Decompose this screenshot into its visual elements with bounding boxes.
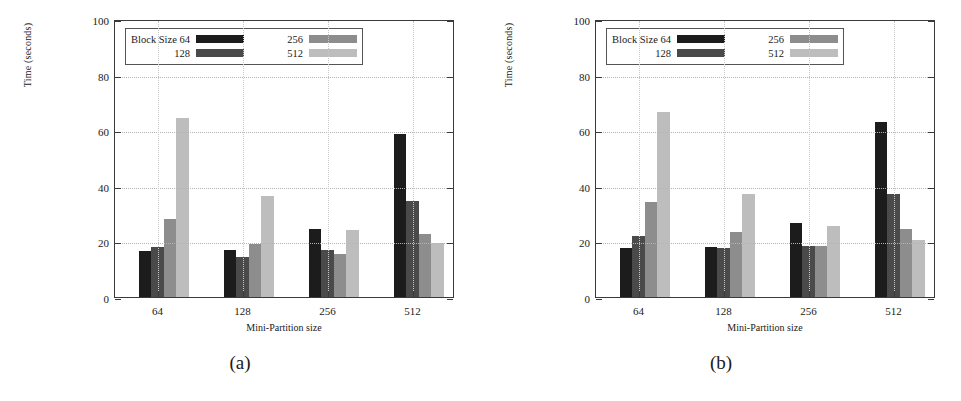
x-tick-label: 64	[152, 305, 163, 317]
bar	[139, 251, 152, 297]
legend-item-256: 256	[244, 34, 357, 45]
y-tick-label: 100	[574, 15, 591, 27]
bar	[176, 118, 189, 297]
plot-wrap-a: Time (seconds) Block Size 64 256	[0, 0, 480, 360]
y-tick-mark	[928, 21, 934, 22]
plot-area-b: Block Size 64 256 128	[595, 20, 935, 298]
x-tick-label: 256	[319, 305, 336, 317]
x-tick-mark	[724, 291, 725, 297]
y-tick-label: 60	[579, 126, 590, 138]
y-tick-mark	[596, 77, 602, 78]
grid-line-vertical	[809, 21, 810, 297]
grid-line	[115, 243, 453, 244]
bar	[730, 232, 743, 297]
legend-item-256: 256	[725, 34, 838, 45]
y-tick-label: 80	[579, 71, 590, 83]
chart-panel-b: Time (seconds) Block Size 64 256	[481, 0, 961, 401]
bar	[645, 202, 658, 297]
grid-line	[115, 132, 453, 133]
legend-row: Block Size 64 256	[131, 32, 357, 46]
legend-item-512: 512	[725, 48, 838, 59]
x-tick-mark	[809, 291, 810, 297]
grid-line	[596, 77, 934, 78]
x-tick-label: 256	[800, 305, 817, 317]
grid-line	[596, 132, 934, 133]
plot-wrap-b: Time (seconds) Block Size 64 256	[481, 0, 961, 360]
legend-label-512: 512	[244, 48, 309, 59]
y-axis-label-b: Time (seconds)	[503, 0, 514, 120]
bar	[394, 134, 407, 297]
legend-item-blocksize-64: Block Size 64	[612, 34, 725, 45]
x-tick-label: 128	[715, 305, 732, 317]
bar	[790, 223, 803, 297]
y-tick-mark	[447, 299, 453, 300]
panel-caption-b: (b)	[481, 352, 961, 374]
x-tick-label: 512	[404, 305, 421, 317]
bar	[346, 230, 359, 297]
y-tick-mark	[928, 243, 934, 244]
y-tick-mark	[115, 132, 121, 133]
y-tick-mark	[928, 132, 934, 133]
y-tick-mark	[115, 188, 121, 189]
legend-label-256: 256	[725, 34, 790, 45]
x-axis-label-b: Mini-Partition size	[595, 322, 935, 333]
grid-line-vertical	[894, 21, 895, 297]
y-tick-label: 100	[93, 15, 110, 27]
grid-line-vertical	[158, 21, 159, 297]
bar	[249, 244, 262, 297]
legend-swatch-128	[677, 49, 725, 57]
x-tick-label: 512	[885, 305, 902, 317]
y-tick-mark	[596, 188, 602, 189]
panel-caption-a: (a)	[0, 352, 480, 374]
bar	[309, 229, 322, 297]
legend-item-blocksize-64: Block Size 64	[131, 34, 244, 45]
bar	[742, 194, 755, 297]
y-tick-label: 80	[98, 71, 109, 83]
legend-swatch-128	[196, 49, 244, 57]
x-axis-label-a: Mini-Partition size	[114, 322, 454, 333]
bar	[815, 246, 828, 297]
x-tick-mark	[158, 291, 159, 297]
y-tick-label: 40	[579, 182, 590, 194]
legend-label-128: 128	[612, 48, 677, 59]
legend-swatch-512	[790, 49, 838, 57]
x-tick-label: 128	[234, 305, 251, 317]
legend-item-128: 128	[612, 48, 725, 59]
legend-swatch-blocksize-64	[196, 35, 244, 43]
y-tick-mark	[115, 299, 121, 300]
grid-line	[596, 188, 934, 189]
legend-label-256: 256	[244, 34, 309, 45]
y-tick-mark	[115, 21, 121, 22]
x-tick-label: 64	[633, 305, 644, 317]
bar	[620, 248, 633, 297]
y-tick-mark	[596, 243, 602, 244]
y-tick-mark	[115, 77, 121, 78]
bar	[827, 226, 840, 297]
x-tick-mark	[894, 291, 895, 297]
legend-label-blocksize-64: Block Size 64	[131, 34, 196, 45]
bar	[705, 247, 718, 297]
legend-item-128: 128	[131, 48, 244, 59]
legend-row: 128 512	[131, 46, 357, 60]
grid-line	[115, 188, 453, 189]
y-tick-mark	[447, 21, 453, 22]
bar	[900, 229, 913, 297]
plot-area-a: Block Size 64 256 128	[114, 20, 454, 298]
y-tick-mark	[596, 299, 602, 300]
legend-swatch-blocksize-64	[677, 35, 725, 43]
legend-row: Block Size 64 256	[612, 32, 838, 46]
y-tick-mark	[596, 132, 602, 133]
grid-line-vertical	[328, 21, 329, 297]
grid-line	[115, 77, 453, 78]
grid-line-vertical	[639, 21, 640, 297]
bar	[657, 112, 670, 297]
grid-line-vertical	[724, 21, 725, 297]
bar	[334, 254, 347, 297]
grid-line-vertical	[243, 21, 244, 297]
legend-swatch-256	[790, 35, 838, 43]
y-tick-label: 60	[98, 126, 109, 138]
legend-swatch-512	[309, 49, 357, 57]
y-tick-mark	[115, 243, 121, 244]
y-tick-mark	[447, 188, 453, 189]
y-tick-label: 40	[98, 182, 109, 194]
